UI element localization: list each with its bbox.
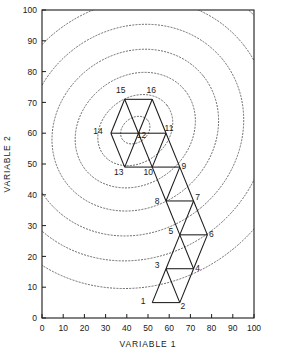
vertex-label-2: 2 — [180, 301, 185, 311]
y-tick-label-100: 100 — [23, 5, 37, 15]
x-tick-label-30: 30 — [101, 323, 111, 333]
vertex-label-7: 7 — [195, 192, 200, 202]
simplex-edge-1-3 — [152, 269, 166, 303]
x-tick-label-80: 80 — [207, 323, 217, 333]
simplex-edge-6-7 — [194, 201, 208, 235]
simplex-edge-2-4 — [180, 269, 194, 303]
plot-svg: 1234567891011121314151601020304050607080… — [0, 0, 282, 352]
y-axis-label: VARIABLE 2 — [2, 135, 12, 192]
y-tick-label-90: 90 — [28, 36, 38, 46]
x-tick-label-40: 40 — [122, 323, 132, 333]
vertex-label-9: 9 — [181, 161, 186, 171]
vertex-label-16: 16 — [147, 85, 157, 95]
x-tick-label-70: 70 — [186, 323, 196, 333]
contour-level-1 — [115, 111, 155, 150]
figure-panel: 1234567891011121314151601020304050607080… — [0, 0, 282, 352]
x-tick-label-10: 10 — [58, 323, 68, 333]
contour-level-4 — [19, 16, 251, 244]
simplex-edge-7-9 — [180, 167, 194, 201]
y-tick-label-70: 70 — [28, 98, 38, 108]
vertex-label-5: 5 — [168, 226, 173, 236]
x-tick-label-50: 50 — [143, 323, 153, 333]
simplex-edge-3-5 — [166, 235, 180, 269]
y-tick-label-40: 40 — [28, 190, 38, 200]
vertex-label-15: 15 — [116, 85, 126, 95]
vertex-label-14: 14 — [93, 126, 103, 136]
simplex-edge-4-5 — [180, 235, 194, 269]
x-tick-label-90: 90 — [228, 323, 238, 333]
y-tick-label-30: 30 — [28, 221, 38, 231]
simplex-edge-13-14 — [111, 133, 125, 167]
vertex-label-1: 1 — [141, 296, 146, 306]
plot-frame — [42, 10, 254, 318]
simplex-edge-9-11 — [166, 133, 180, 167]
y-tick-label-80: 80 — [28, 67, 38, 77]
x-tick-label-100: 100 — [247, 323, 261, 333]
simplex-edge-14-15 — [111, 99, 125, 133]
x-tick-label-60: 60 — [164, 323, 174, 333]
vertex-label-13: 13 — [114, 167, 124, 177]
vertex-label-4: 4 — [195, 263, 200, 273]
y-tick-label-20: 20 — [28, 252, 38, 262]
vertex-label-10: 10 — [144, 167, 154, 177]
vertex-label-11: 11 — [165, 123, 174, 133]
contour-level-3 — [52, 48, 219, 211]
simplex-edge-10-11 — [152, 133, 166, 167]
x-tick-label-20: 20 — [80, 323, 90, 333]
x-tick-label-0: 0 — [40, 323, 45, 333]
x-axis-label: VARIABLE 1 — [119, 339, 176, 349]
y-tick-label-50: 50 — [28, 159, 38, 169]
simplex-edge-12-15 — [125, 99, 139, 133]
simplex-edge-5-7 — [180, 201, 194, 235]
simplex-edge-2-3 — [166, 269, 180, 303]
vertex-label-3: 3 — [155, 260, 160, 270]
simplex-edge-8-9 — [166, 167, 180, 201]
vertex-label-12: 12 — [137, 130, 147, 140]
vertex-label-8: 8 — [155, 196, 160, 206]
y-tick-label-0: 0 — [32, 313, 37, 323]
y-tick-label-10: 10 — [28, 282, 38, 292]
y-tick-label-60: 60 — [28, 128, 38, 138]
vertex-label-6: 6 — [209, 229, 214, 239]
